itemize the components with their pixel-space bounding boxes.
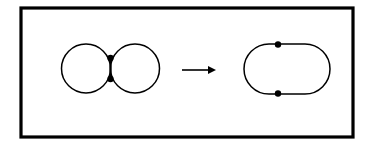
upper-vertex-dot — [107, 55, 113, 61]
page-background — [0, 0, 375, 150]
figure-container: two-tangent-circles-with-edge stadium-ov… — [0, 0, 375, 150]
diagram-canvas — [0, 0, 375, 150]
bottom-vertex-dot — [275, 90, 281, 96]
lower-vertex-dot — [107, 76, 113, 82]
top-vertex-dot — [275, 41, 281, 47]
